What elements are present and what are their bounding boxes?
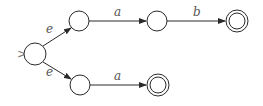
- transition-label-q0-q4: e: [46, 65, 53, 79]
- state-q5-accepting-inner: [150, 77, 166, 93]
- transition-label-q1-q2: a: [114, 5, 121, 19]
- state-q3-accepting-inner: [229, 13, 245, 29]
- transition-label-q2-q3: b: [193, 5, 201, 19]
- transition-label-q0-q1: e: [46, 22, 53, 36]
- state-q0-start: [24, 43, 46, 65]
- state-q2: [147, 11, 167, 31]
- state-q4: [70, 75, 90, 95]
- automaton-diagram: > e a b e a: [0, 0, 263, 106]
- transition-label-q4-q5: a: [114, 69, 121, 83]
- state-q1: [69, 11, 89, 31]
